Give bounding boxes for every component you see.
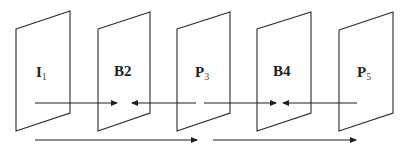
diagram-svg: I1 B2 P3 B4 P5 — [0, 0, 408, 152]
frame-b2: B2 — [98, 12, 150, 131]
frame-i1: I1 — [16, 11, 70, 131]
frame-b4-label: B4 — [273, 63, 291, 79]
frame-p5-label: P5 — [357, 64, 371, 82]
frame-b4: B4 — [257, 12, 311, 131]
frame-p5: P5 — [339, 12, 393, 131]
frame-p3-label: P3 — [195, 64, 209, 82]
frame-b2-label: B2 — [114, 63, 132, 79]
frame-diagram: I1 B2 P3 B4 P5 — [0, 0, 408, 152]
frame-p3: P3 — [177, 12, 230, 131]
frame-i1-label: I1 — [36, 64, 47, 82]
